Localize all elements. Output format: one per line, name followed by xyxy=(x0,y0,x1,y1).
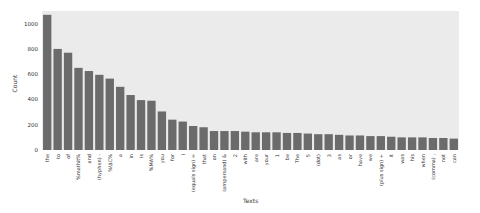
bar xyxy=(53,49,61,150)
bar xyxy=(147,101,155,150)
y-tick-label: 0 xyxy=(35,147,39,153)
x-tick-label: when xyxy=(420,154,426,168)
bar xyxy=(64,53,72,150)
x-tick-label: was xyxy=(399,154,405,164)
x-axis: thetoof%mathit%and(hyphen) -%\$C%ainis%M… xyxy=(44,153,457,192)
x-tick-label: of xyxy=(65,154,71,159)
bar xyxy=(439,138,447,150)
bar xyxy=(210,131,218,150)
x-tick-label: can xyxy=(451,154,457,163)
x-tick-label: %\$C% xyxy=(107,154,113,172)
bar xyxy=(304,134,312,150)
bar xyxy=(137,100,145,150)
x-tick-label: (ampersand) & xyxy=(221,154,228,192)
x-tick-label: %MA% xyxy=(148,154,154,171)
bar xyxy=(387,137,395,150)
x-tick-label: we xyxy=(367,154,373,161)
x-tick-label: that xyxy=(201,154,207,164)
x-tick-label: I xyxy=(180,154,186,155)
x-tick-label: 1 xyxy=(274,154,280,157)
y-axis-label: Count xyxy=(11,75,18,93)
x-tick-label: to xyxy=(55,154,61,159)
bar xyxy=(116,87,124,150)
x-axis-label: Texts xyxy=(243,197,258,204)
bar xyxy=(283,133,291,150)
x-tick-label: and xyxy=(86,154,92,163)
bar xyxy=(366,136,374,150)
bar-chart: 02004006008001000 thetoof%mathit%and(hyp… xyxy=(0,0,480,213)
bar xyxy=(345,135,353,150)
bar xyxy=(418,137,426,150)
bar xyxy=(293,133,301,150)
y-tick-label: 600 xyxy=(28,71,39,77)
bar xyxy=(397,137,405,150)
bar xyxy=(179,122,187,150)
bar xyxy=(43,15,51,150)
x-tick-label: are xyxy=(253,154,259,162)
y-tick-label: 200 xyxy=(28,122,39,128)
x-tick-label: it xyxy=(388,154,394,157)
bar xyxy=(252,132,260,150)
bar xyxy=(168,120,176,150)
x-tick-label: 2 xyxy=(232,154,238,157)
y-tick-label: 800 xyxy=(28,46,39,52)
x-tick-label: (comma) , xyxy=(430,154,436,180)
bar xyxy=(158,111,166,150)
bar xyxy=(429,138,437,150)
x-tick-label: a xyxy=(117,154,123,157)
x-tick-label: %mathit% xyxy=(75,154,81,180)
bar xyxy=(314,134,322,150)
bar xyxy=(450,139,458,150)
x-tick-label: (dot) xyxy=(315,154,321,166)
x-tick-label: is xyxy=(138,154,144,158)
bar xyxy=(189,126,197,150)
bar xyxy=(106,79,114,150)
bar xyxy=(377,136,385,150)
bar xyxy=(272,132,280,150)
bar xyxy=(95,75,103,150)
x-tick-label: be xyxy=(284,154,290,160)
x-tick-label: or xyxy=(347,153,353,159)
x-tick-label: his xyxy=(409,154,415,162)
x-tick-label: for xyxy=(169,153,175,161)
y-tick-label: 1000 xyxy=(24,21,38,27)
y-tick-label: 400 xyxy=(28,96,39,102)
x-tick-label: your xyxy=(263,153,270,165)
bar xyxy=(199,127,207,150)
x-tick-label: on xyxy=(211,154,217,160)
x-tick-label: have xyxy=(357,154,363,166)
x-tick-label: 5 xyxy=(305,154,311,157)
y-axis: 02004006008001000 xyxy=(24,21,39,153)
bar xyxy=(85,71,93,150)
x-tick-label: the xyxy=(44,154,50,162)
bar xyxy=(262,132,270,150)
x-tick-label: with xyxy=(242,154,248,165)
bar xyxy=(325,134,333,150)
bar xyxy=(408,137,416,150)
bar xyxy=(231,131,239,150)
bar xyxy=(356,135,364,150)
x-tick-label: 3 xyxy=(326,154,332,157)
x-tick-label: The xyxy=(294,154,300,164)
x-tick-label: not xyxy=(440,154,446,162)
bar xyxy=(335,135,343,150)
x-tick-label: as xyxy=(336,154,342,160)
x-tick-label: (hyphen) - xyxy=(96,154,103,180)
bar xyxy=(126,95,134,150)
bar xyxy=(241,132,249,150)
bar xyxy=(220,131,228,150)
x-tick-label: in xyxy=(128,154,134,159)
x-tick-label: you xyxy=(159,154,166,163)
x-tick-label: (plus sign) + xyxy=(378,154,385,186)
plot-area xyxy=(42,11,459,150)
bar xyxy=(74,68,82,150)
x-tick-label: (equals sign) = xyxy=(190,154,197,192)
